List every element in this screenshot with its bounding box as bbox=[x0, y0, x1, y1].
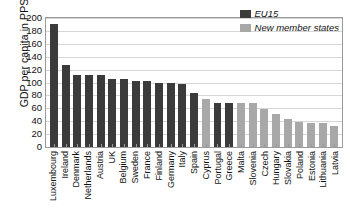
x-tickmark bbox=[77, 144, 78, 147]
x-label-slot: Sweden bbox=[129, 149, 141, 211]
x-label-slot: UK bbox=[106, 149, 118, 211]
gdp-per-capita-bar-chart: GDP per capita in PPS 020406080100120140… bbox=[0, 0, 351, 215]
x-tickmark bbox=[159, 144, 160, 147]
y-tick-label: 180 bbox=[17, 26, 42, 36]
x-tick-label: Hungary bbox=[272, 151, 281, 185]
x-label-slot: Lithuania bbox=[318, 149, 330, 211]
y-tick-label: 140 bbox=[17, 52, 42, 62]
x-tickmark bbox=[288, 144, 289, 147]
x-axis-tick-labels: LuxembourgIrelandDenmarkNetherlandsAustr… bbox=[45, 149, 343, 211]
y-axis-tick-labels: 020406080100120140160180200 bbox=[17, 10, 42, 155]
x-tick-label: Lithuania bbox=[319, 151, 328, 188]
bar[interactable] bbox=[108, 79, 116, 147]
x-label-slot: Denmark bbox=[71, 149, 83, 211]
bar-slot bbox=[212, 18, 224, 147]
bar[interactable] bbox=[143, 81, 151, 147]
x-tickmark bbox=[194, 144, 195, 147]
x-tickmark bbox=[299, 144, 300, 147]
bar-slot bbox=[247, 18, 259, 147]
x-tick-label: France bbox=[143, 151, 152, 179]
bar[interactable] bbox=[190, 93, 198, 147]
bar[interactable] bbox=[202, 99, 210, 147]
bar[interactable] bbox=[132, 81, 140, 147]
x-label-slot: Italy bbox=[176, 149, 188, 211]
bar-slot bbox=[118, 18, 130, 147]
x-label-slot: Slovakia bbox=[282, 149, 294, 211]
y-tick-label: 20 bbox=[17, 129, 42, 139]
legend-swatch-icon bbox=[240, 10, 251, 18]
bar[interactable] bbox=[225, 103, 233, 148]
x-tickmark bbox=[241, 144, 242, 147]
y-tick-label: 80 bbox=[17, 91, 42, 101]
x-tick-label: Netherlands bbox=[84, 151, 93, 200]
bar-slot bbox=[223, 18, 235, 147]
x-tick-label: Austria bbox=[95, 151, 104, 179]
x-tick-label: Poland bbox=[295, 151, 304, 179]
x-tickmark bbox=[311, 144, 312, 147]
x-label-slot: Portugal bbox=[212, 149, 224, 211]
bar-slot bbox=[200, 18, 212, 147]
x-tickmark bbox=[276, 144, 277, 147]
bar[interactable] bbox=[155, 83, 163, 148]
bar-slot bbox=[71, 18, 83, 147]
bar-slot bbox=[317, 18, 329, 147]
bar-slot bbox=[165, 18, 177, 147]
x-label-slot: Germany bbox=[165, 149, 177, 211]
bar[interactable] bbox=[237, 103, 245, 147]
bar-slot bbox=[258, 18, 270, 147]
y-tick-label: 160 bbox=[17, 39, 42, 49]
x-tick-label: Slovenia bbox=[248, 151, 257, 186]
bar[interactable] bbox=[249, 103, 257, 147]
y-tick-label: 120 bbox=[17, 65, 42, 75]
bar[interactable] bbox=[97, 75, 105, 147]
x-label-slot: Latvia bbox=[329, 149, 341, 211]
x-tickmark bbox=[206, 144, 207, 147]
x-label-slot: Slovenia bbox=[247, 149, 259, 211]
bar[interactable] bbox=[167, 83, 175, 147]
bar-slot bbox=[130, 18, 142, 147]
bar-slot bbox=[177, 18, 189, 147]
legend-label: EU15 bbox=[255, 8, 279, 19]
x-tickmark bbox=[253, 144, 254, 147]
x-label-slot: Spain bbox=[188, 149, 200, 211]
bar-slot bbox=[95, 18, 107, 147]
bar[interactable] bbox=[178, 84, 186, 147]
x-tickmark bbox=[112, 144, 113, 147]
x-tickmark bbox=[217, 144, 218, 147]
bar-slot bbox=[305, 18, 317, 147]
x-tick-label: UK bbox=[107, 151, 116, 164]
bar[interactable] bbox=[62, 65, 70, 147]
legend-item[interactable]: New member states bbox=[240, 22, 339, 33]
x-tick-label: Germany bbox=[166, 151, 175, 188]
bar[interactable] bbox=[284, 119, 292, 147]
bar[interactable] bbox=[73, 75, 81, 147]
bar[interactable] bbox=[260, 109, 268, 147]
bar-slot bbox=[106, 18, 118, 147]
bars-container bbox=[46, 18, 342, 147]
x-tickmark bbox=[54, 144, 55, 147]
plot-area bbox=[45, 17, 343, 148]
bar[interactable] bbox=[50, 24, 58, 147]
bar[interactable] bbox=[214, 103, 222, 148]
bar-slot bbox=[142, 18, 154, 147]
x-label-slot: Czech bbox=[259, 149, 271, 211]
x-tickmark bbox=[334, 144, 335, 147]
x-tick-label: Ireland bbox=[60, 151, 69, 179]
y-tick-label: 100 bbox=[17, 78, 42, 88]
x-tick-label: Latvia bbox=[331, 151, 340, 175]
bar[interactable] bbox=[85, 75, 93, 147]
bar[interactable] bbox=[272, 114, 280, 147]
x-tickmark bbox=[124, 144, 125, 147]
bar-slot bbox=[83, 18, 95, 147]
x-label-slot: Ireland bbox=[59, 149, 71, 211]
x-tick-label: Czech bbox=[260, 151, 269, 177]
y-tick-label: 40 bbox=[17, 116, 42, 126]
x-label-slot: Finland bbox=[153, 149, 165, 211]
x-tickmark bbox=[323, 144, 324, 147]
x-tick-label: Denmark bbox=[72, 151, 81, 188]
bar[interactable] bbox=[120, 79, 128, 147]
bar-slot bbox=[153, 18, 165, 147]
legend-item[interactable]: EU15 bbox=[240, 8, 339, 19]
x-tickmark bbox=[89, 144, 90, 147]
x-tickmark bbox=[101, 144, 102, 147]
